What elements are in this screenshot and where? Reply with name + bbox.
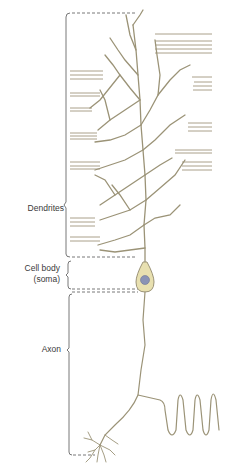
neuron-diagram bbox=[0, 0, 226, 468]
cell-body bbox=[136, 262, 154, 292]
nucleus bbox=[141, 276, 150, 285]
axon-terminals bbox=[84, 432, 118, 462]
axon bbox=[100, 292, 219, 445]
cell-body-bracket bbox=[66, 261, 138, 292]
axon-bracket bbox=[67, 294, 95, 455]
input-axon-lines bbox=[70, 34, 212, 241]
